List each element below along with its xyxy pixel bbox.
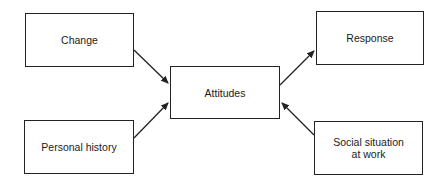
node-personal-history: Personal history xyxy=(24,120,134,174)
node-social-situation: Social situation at work xyxy=(314,121,423,175)
node-change: Change xyxy=(25,13,134,67)
arrow-social-situation-to-attitudes xyxy=(282,103,314,135)
node-change-label: Change xyxy=(61,34,98,46)
arrow-change-to-attitudes xyxy=(134,50,168,83)
node-attitudes-label: Attitudes xyxy=(205,87,246,99)
node-attitudes: Attitudes xyxy=(170,66,280,119)
node-personal-history-label: Personal history xyxy=(41,141,116,153)
arrow-personal-history-to-attitudes xyxy=(134,103,168,138)
node-social-situation-label-line2: at work xyxy=(333,148,404,160)
node-social-situation-label-line1: Social situation xyxy=(333,136,404,148)
arrow-attitudes-to-response xyxy=(280,51,314,85)
node-response: Response xyxy=(316,11,424,65)
node-response-label: Response xyxy=(346,32,393,44)
